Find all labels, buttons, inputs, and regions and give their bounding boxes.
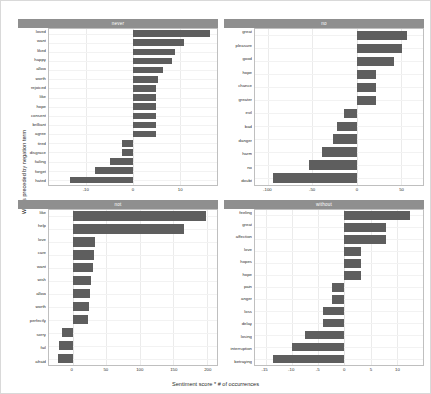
- y-tick-label: want: [18, 265, 46, 269]
- y-tick-label: sorry: [18, 333, 46, 337]
- y-tick-label: failing: [18, 160, 46, 164]
- y-tick-label: feeling: [224, 211, 252, 215]
- y-tick-label: worth: [18, 77, 46, 81]
- bar: [344, 271, 361, 280]
- bar: [344, 235, 386, 244]
- bar: [133, 122, 156, 129]
- bar: [322, 147, 356, 156]
- bar: [110, 158, 133, 165]
- x-tick-label: 10: [178, 187, 183, 192]
- y-tick-label: help: [18, 224, 46, 228]
- y-tick-label: afraid: [18, 360, 46, 364]
- gridline: [207, 210, 208, 366]
- gridline-horizontal: [255, 275, 423, 276]
- bar: [323, 307, 344, 316]
- gridline-horizontal: [49, 171, 217, 172]
- x-axis: 050100150200: [48, 366, 218, 375]
- y-tick-label: losing: [224, 335, 252, 339]
- y-tick-label: affection: [224, 235, 252, 239]
- bar: [73, 237, 95, 246]
- facet-without: withoutfeelinggreataffectionlovehopeshop…: [224, 200, 424, 376]
- bar: [73, 289, 90, 298]
- facet-strip-label: not: [18, 200, 218, 209]
- gridline-horizontal: [255, 251, 423, 252]
- x-tick-label: 50: [399, 187, 404, 192]
- bar: [344, 247, 361, 256]
- y-tick-label: agree: [18, 132, 46, 136]
- plot-panel: [254, 209, 424, 367]
- gridline-horizontal: [255, 100, 423, 101]
- sentiment-negation-facet-chart: Words preceded by negation term Sentimen…: [0, 0, 431, 394]
- bar: [133, 103, 156, 110]
- y-tick-label: good: [224, 57, 252, 61]
- y-tick-label: happy: [18, 58, 46, 62]
- gridline-horizontal: [255, 74, 423, 75]
- bar: [332, 295, 345, 304]
- x-axis: -10010: [48, 186, 218, 195]
- gridline-horizontal: [49, 152, 217, 153]
- y-tick-label: greater: [224, 98, 252, 102]
- bar: [122, 149, 133, 156]
- gridline-horizontal: [255, 239, 423, 240]
- bar: [357, 70, 376, 79]
- bar: [305, 331, 344, 340]
- x-tick-label: 150: [170, 367, 177, 372]
- facet-strip-label: without: [224, 200, 424, 209]
- gridline-horizontal: [255, 227, 423, 228]
- x-tick-label: 5: [370, 367, 372, 372]
- bar: [73, 263, 94, 272]
- gridline-horizontal: [255, 87, 423, 88]
- bar: [133, 76, 158, 83]
- y-tick-label: hope: [224, 273, 252, 277]
- x-tick-label: 0: [356, 187, 358, 192]
- x-tick-label: -100: [263, 187, 272, 192]
- y-tick-label: hopes: [224, 260, 252, 264]
- bar: [95, 167, 133, 174]
- facet-grid: neverlovedwantlikedhappyallowworthrejoic…: [18, 19, 424, 375]
- y-tick-label: allow: [18, 292, 46, 296]
- facet-never: neverlovedwantlikedhappyallowworthrejoic…: [18, 19, 218, 195]
- bar: [58, 354, 73, 363]
- y-tick-label: chance: [224, 84, 252, 88]
- y-tick-labels: greatpleasuregoodhopechancegreaterevilba…: [224, 28, 254, 186]
- bar: [344, 223, 386, 232]
- x-axis: -100-50050: [254, 186, 424, 195]
- bar: [309, 160, 357, 169]
- y-tick-label: betraying: [224, 360, 252, 364]
- x-tick-label: 0: [71, 367, 73, 372]
- bar: [133, 94, 156, 101]
- bar: [62, 328, 73, 337]
- y-tick-label: like: [18, 95, 46, 99]
- gridline-horizontal: [49, 162, 217, 163]
- y-tick-label: delay: [224, 322, 252, 326]
- gridline-horizontal: [255, 61, 423, 62]
- x-tick-label: 0: [343, 367, 345, 372]
- bar: [133, 39, 184, 46]
- y-tick-label: brilliant: [18, 123, 46, 127]
- bar: [273, 173, 357, 182]
- bar: [133, 85, 156, 92]
- gridline-horizontal: [255, 263, 423, 264]
- x-tick-label: -15: [262, 367, 268, 372]
- bar: [73, 302, 90, 311]
- facet-not: notlikehelplovecarewantwishallowworthper…: [18, 200, 218, 376]
- bar: [323, 319, 344, 328]
- bar: [344, 109, 356, 118]
- bar: [73, 224, 185, 233]
- bar: [73, 250, 95, 259]
- x-tick-label: -10: [83, 187, 89, 192]
- bar: [332, 283, 345, 292]
- gridline-horizontal: [49, 359, 217, 360]
- bar: [344, 259, 361, 268]
- x-tick-label: -10: [288, 367, 294, 372]
- y-tick-label: pleasure: [224, 44, 252, 48]
- y-tick-label: disgrace: [18, 151, 46, 155]
- y-tick-label: great: [224, 30, 252, 34]
- bar: [357, 44, 402, 53]
- bar: [344, 211, 410, 220]
- bar: [273, 355, 344, 364]
- y-tick-label: love: [224, 248, 252, 252]
- bar: [337, 122, 356, 131]
- y-tick-label: anger: [224, 297, 252, 301]
- x-tick-label: 10: [395, 367, 400, 372]
